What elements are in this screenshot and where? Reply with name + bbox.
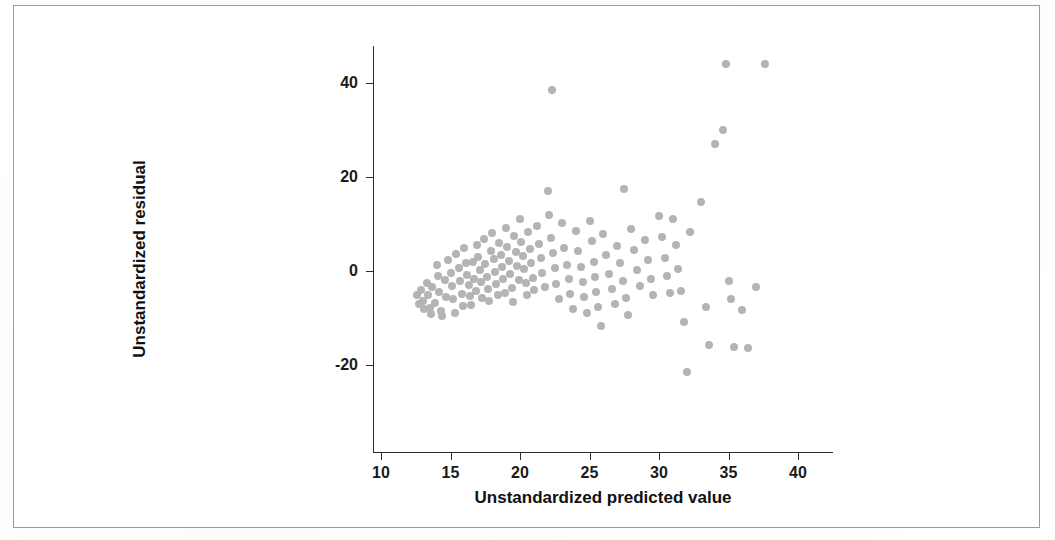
scatter-point: [472, 287, 480, 295]
scatter-point: [672, 241, 680, 249]
scatter-point: [605, 270, 613, 278]
scatter-point: [524, 228, 532, 236]
scatter-point: [711, 140, 719, 148]
scatter-point: [530, 286, 538, 294]
scatter-point: [438, 312, 446, 320]
scatter-point: [449, 295, 457, 303]
scatter-point: [426, 304, 434, 312]
scatter-point: [495, 239, 503, 247]
scatter-point: [644, 256, 652, 264]
scatter-point: [520, 265, 528, 273]
scatter-point: [505, 257, 513, 265]
scatter-point: [583, 309, 591, 317]
scatter-point: [509, 298, 517, 306]
scatter-point: [565, 275, 573, 283]
scatter-point: [647, 275, 655, 283]
scatter-point: [473, 241, 481, 249]
scatter-point: [460, 244, 468, 252]
scatter-point: [487, 247, 495, 255]
y-axis-line: [373, 46, 374, 453]
scatter-point: [452, 250, 460, 258]
scatter-point: [541, 283, 549, 291]
scatter-point: [547, 234, 555, 242]
scatter-point: [620, 185, 628, 193]
scatter-point: [680, 318, 688, 326]
scatter-point: [465, 281, 473, 289]
plot-area: 40200-20 10152025303540 Unstandardized p…: [14, 6, 1039, 527]
scatter-point: [491, 268, 499, 276]
scatter-point: [424, 291, 432, 299]
y-tick-mark: [366, 177, 373, 178]
scatter-point: [515, 276, 523, 284]
scatter-point: [516, 215, 524, 223]
scatter-point: [738, 306, 746, 314]
scatter-point: [512, 248, 520, 256]
scatter-point: [551, 264, 559, 272]
scatter-point: [677, 287, 685, 295]
scatter-point: [481, 260, 489, 268]
y-tick-mark: [366, 365, 373, 366]
scatter-point: [419, 297, 427, 305]
scatter-point: [697, 198, 705, 206]
scatter-point: [588, 237, 596, 245]
scatter-point: [752, 283, 760, 291]
scatter-point: [592, 288, 600, 296]
scatter-point: [537, 254, 545, 262]
x-tick-label: 10: [372, 464, 390, 482]
scatter-point: [555, 295, 563, 303]
scatter-point: [455, 264, 463, 272]
scatter-point: [669, 215, 677, 223]
scatter-point: [599, 230, 607, 238]
scatter-point: [611, 300, 619, 308]
scatter-point: [499, 275, 507, 283]
x-axis-line: [373, 452, 833, 453]
scatter-point: [523, 291, 531, 299]
scatter-point: [441, 276, 449, 284]
scatter-point: [492, 280, 500, 288]
scatter-point: [548, 86, 556, 94]
scatter-point: [433, 261, 441, 269]
figure-frame: 40200-20 10152025303540 Unstandardized p…: [13, 5, 1040, 528]
scatter-point: [415, 300, 423, 308]
scatter-point: [577, 263, 585, 271]
scatter-point: [462, 259, 470, 267]
scatter-point: [529, 274, 537, 282]
scatter-point: [683, 368, 691, 376]
scatter-point: [719, 126, 727, 134]
scatter-point: [431, 299, 439, 307]
scatter-point: [508, 284, 516, 292]
scatter-point: [552, 280, 560, 288]
scatter-point: [444, 256, 452, 264]
scatter-point: [674, 265, 682, 273]
scatter-point: [423, 279, 431, 287]
scatter-point: [506, 270, 514, 278]
y-tick-label: 20: [300, 168, 358, 186]
scatter-point: [466, 292, 474, 300]
scatter-point: [459, 302, 467, 310]
scatter-point: [761, 60, 769, 68]
scatter-point: [560, 244, 568, 252]
scatter-point: [485, 297, 493, 305]
scatter-point: [630, 246, 638, 254]
scatter-point: [730, 343, 738, 351]
scatter-point: [702, 303, 710, 311]
scatter-point: [510, 232, 518, 240]
scatter-point: [686, 228, 694, 236]
scatter-point: [566, 290, 574, 298]
scatter-point: [458, 290, 466, 298]
scatter-point: [513, 262, 521, 270]
scatter-point: [535, 240, 543, 248]
scatter-point: [574, 247, 582, 255]
scatter-point: [619, 277, 627, 285]
scatter-point: [572, 227, 580, 235]
scatter-point: [448, 282, 456, 290]
scatter-point: [591, 273, 599, 281]
scatter-point: [725, 277, 733, 285]
x-tick-label: 35: [720, 464, 738, 482]
x-tick-label: 30: [650, 464, 668, 482]
scatter-point: [456, 277, 464, 285]
scatter-point: [478, 294, 486, 302]
scatter-point: [624, 311, 632, 319]
scatter-point: [563, 261, 571, 269]
scatter-point: [655, 212, 663, 220]
